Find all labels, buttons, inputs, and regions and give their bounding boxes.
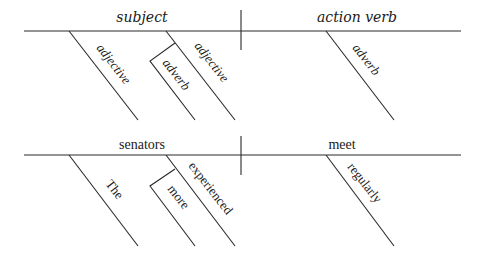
example-subject-label: senators [119,137,165,152]
template-subject-label: subject [116,9,168,25]
sentence-diagrams: subject action verb adjective adjective … [0,0,485,262]
template-diagram: subject action verb adjective adjective … [24,9,461,120]
example-article-label: The [103,177,127,202]
template-adjective-1-label: adjective [94,41,135,87]
example-adverb-bracket [150,169,195,246]
template-adjective-2-label: adjective [192,39,233,85]
example-adverb-of-adjective-label: more [165,182,193,212]
template-verb-label: action verb [317,9,397,25]
example-verb-adverb-label: regularly [345,160,386,207]
template-verb-adverb-label: adverb [350,41,384,79]
example-article-line [69,155,138,246]
example-verb-label: meet [328,137,355,152]
example-diagram: senators meet The experienced more regul… [24,136,461,246]
example-adjective-label: experienced [186,159,237,218]
